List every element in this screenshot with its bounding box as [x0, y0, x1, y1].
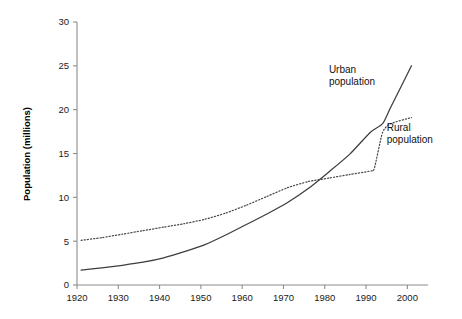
chart-canvas: 051015202530 192019301940195019601970198… — [0, 0, 462, 319]
y-tick-label: 0 — [64, 279, 69, 290]
rural-population-line — [81, 118, 411, 241]
y-axis-title: Population (millions) — [21, 107, 32, 201]
x-axis: 192019301940195019601970198019902000 — [66, 285, 428, 303]
x-axis-tick-labels: 192019301940195019601970198019902000 — [66, 292, 417, 303]
x-tick-label: 1930 — [108, 292, 129, 303]
x-tick-label: 1980 — [314, 292, 335, 303]
x-tick-label: 1970 — [273, 292, 294, 303]
population-line-chart: 051015202530 192019301940195019601970198… — [0, 0, 462, 319]
y-axis-title-group: Population (millions) — [21, 107, 32, 201]
x-tick-label: 1920 — [66, 292, 87, 303]
y-axis-tick-labels: 051015202530 — [58, 16, 69, 290]
x-tick-label: 1990 — [355, 292, 376, 303]
rural-label-line1: Rural — [387, 122, 411, 133]
y-axis: 051015202530 — [58, 16, 77, 290]
urban-population-line — [81, 66, 411, 270]
rural-label-line2: population — [387, 134, 433, 145]
x-tick-label: 2000 — [397, 292, 418, 303]
y-tick-label: 15 — [58, 148, 69, 159]
annotation-layer: Urban population Rural population — [329, 64, 433, 145]
urban-label-line2: population — [329, 76, 375, 87]
urban-label-line1: Urban — [329, 64, 356, 75]
x-tick-label: 1960 — [232, 292, 253, 303]
series-layer — [81, 66, 411, 270]
y-tick-label: 20 — [58, 104, 69, 115]
y-tick-label: 30 — [58, 16, 69, 27]
x-axis-ticks — [77, 285, 407, 289]
x-tick-label: 1940 — [149, 292, 170, 303]
x-tick-label: 1950 — [190, 292, 211, 303]
y-tick-label: 10 — [58, 192, 69, 203]
y-tick-label: 25 — [58, 60, 69, 71]
y-tick-label: 5 — [64, 236, 69, 247]
y-axis-ticks — [73, 22, 77, 285]
